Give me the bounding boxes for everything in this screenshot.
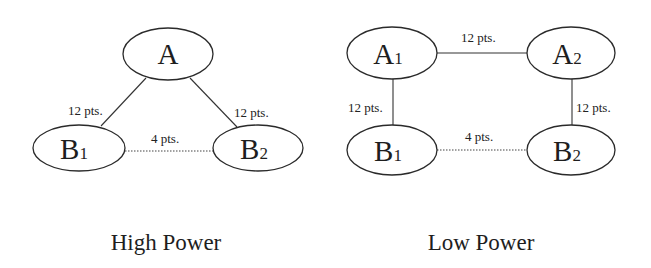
edge-label-a1-a2: 12 pts. xyxy=(461,30,496,45)
low-power-panel: 12 pts. 12 pts. 12 pts. 4 pts. A1 A2 B1 … xyxy=(347,27,615,255)
edge-label-b1-b2: 4 pts. xyxy=(151,131,179,146)
panel-title-low-power: Low Power xyxy=(428,230,535,255)
edge-a-b2 xyxy=(190,78,237,127)
edge-label-a-b1: 12 pts. xyxy=(68,103,103,118)
node-subscript: 2 xyxy=(572,146,581,165)
node-label: B xyxy=(60,133,79,165)
node-a1: A1 xyxy=(347,27,437,79)
node-label: A xyxy=(373,38,394,70)
node-b1: B1 xyxy=(33,125,125,171)
edge-label-a-b2: 12 pts. xyxy=(234,105,269,120)
node-subscript: 1 xyxy=(79,144,88,163)
node-subscript: 2 xyxy=(259,144,268,163)
node-a2: A2 xyxy=(527,27,615,79)
node-label: A xyxy=(158,38,179,70)
node-b2: B2 xyxy=(527,125,615,175)
edge-label-a2-b2: 12 pts. xyxy=(576,100,611,115)
node-a: A xyxy=(123,28,213,80)
node-b2: B2 xyxy=(213,125,303,171)
edge-label-a1-b1: 12 pts. xyxy=(348,100,383,115)
node-b1: B1 xyxy=(347,125,437,175)
node-subscript: 1 xyxy=(394,49,403,68)
node-label: B xyxy=(374,135,393,167)
svg-text:A: A xyxy=(158,38,179,70)
node-label: B xyxy=(553,135,572,167)
node-subscript: 1 xyxy=(393,146,402,165)
node-subscript: 2 xyxy=(573,49,582,68)
panel-title-high-power: High Power xyxy=(111,230,222,255)
node-label: A xyxy=(552,38,573,70)
high-power-panel: 12 pts. 12 pts. 4 pts. A B1 B2 High Powe… xyxy=(33,28,303,255)
power-network-diagram: 12 pts. 12 pts. 4 pts. A B1 B2 High Powe… xyxy=(0,0,651,268)
edge-label-b1-b2: 4 pts. xyxy=(465,129,493,144)
edge-a-b1 xyxy=(101,78,146,126)
node-label: B xyxy=(240,133,259,165)
